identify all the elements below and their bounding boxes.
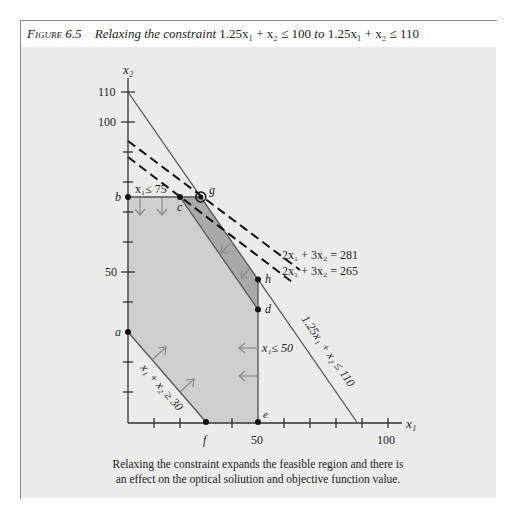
figure-note-line2: an effect on the optical soliution and o… [0, 473, 516, 485]
point-f [203, 419, 209, 425]
point-h [255, 277, 261, 283]
label-d: d [265, 302, 272, 316]
y-tick-110: 110 [98, 85, 116, 99]
objective-label-265: 2x₁ + 3x₂ = 265 [282, 264, 358, 278]
constraint-x1-50: x₁≤ 50 [261, 341, 293, 355]
lp-chart: x₂ x₁ 110 100 50 50 100 a b c g h d e f … [0, 0, 516, 516]
label-b: b [115, 190, 121, 204]
label-g: g [209, 183, 215, 197]
y-tick-50: 50 [105, 265, 117, 279]
label-f: f [203, 433, 208, 447]
constraint-x1-75: x₁≤ 75 [135, 182, 167, 196]
x-tick-100: 100 [377, 433, 395, 447]
y-axis-label: x₂ [122, 62, 134, 77]
label-h: h [265, 272, 271, 286]
feasible-region [128, 197, 258, 422]
label-c: c [177, 200, 183, 214]
x-tick-50: 50 [251, 433, 263, 447]
objective-label-281: 2x₁ + 3x₂ = 281 [282, 248, 358, 262]
label-a: a [115, 325, 121, 339]
point-e [255, 419, 261, 425]
point-d [255, 307, 261, 313]
figure-note-line1: Relaxing the constraint expands the feas… [0, 458, 516, 470]
x-axis-label: x₁ [405, 416, 416, 431]
y-tick-100: 100 [98, 115, 116, 129]
point-a [125, 329, 131, 335]
label-e: e [263, 408, 268, 420]
point-b [125, 194, 131, 200]
